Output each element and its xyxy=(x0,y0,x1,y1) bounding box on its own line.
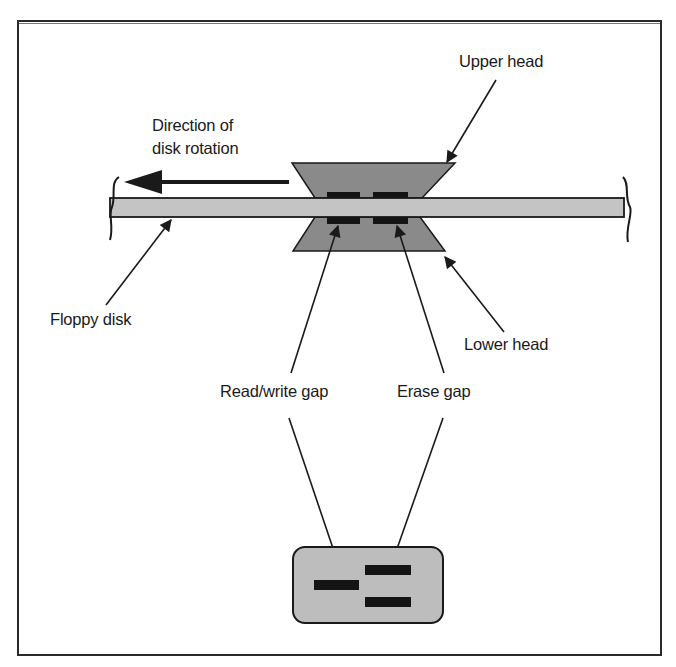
floppy-disk-strip xyxy=(110,198,624,217)
label-erase-gap: Erase gap xyxy=(397,382,470,402)
label-direction-line2: disk rotation xyxy=(152,139,238,159)
rotation-arrow-head-icon xyxy=(124,170,162,194)
label-floppy-disk: Floppy disk xyxy=(50,310,131,330)
lower-erase-gap xyxy=(373,217,408,224)
detail-erase-gap-lower xyxy=(365,597,411,607)
erase-gap-pointer-down xyxy=(392,418,443,563)
label-direction-line1: Direction of xyxy=(152,116,233,136)
lower-read-write-gap xyxy=(327,217,360,224)
upper-head-pointer xyxy=(447,80,496,162)
floppy-head-diagram xyxy=(0,0,676,667)
label-upper-head: Upper head xyxy=(459,52,543,72)
label-read-write-gap: Read/write gap xyxy=(220,382,328,402)
lower-head-pointer xyxy=(445,257,504,332)
detail-erase-gap-upper xyxy=(365,565,411,575)
detail-read-write-gap xyxy=(314,580,359,590)
label-lower-head: Lower head xyxy=(464,335,548,355)
lower-head xyxy=(293,217,445,251)
floppy-disk-pointer xyxy=(106,220,171,305)
